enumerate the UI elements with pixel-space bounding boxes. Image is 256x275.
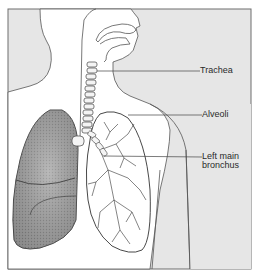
right-bronchus	[72, 136, 84, 146]
respiratory-diagram	[0, 0, 256, 275]
label-alveoli: Alveoli	[202, 110, 229, 119]
arm-region	[190, 104, 251, 269]
label-left-main-bronchus: Left main bronchus	[202, 152, 239, 170]
label-left-main-bronchus-line2: bronchus	[202, 161, 239, 170]
label-trachea: Trachea	[200, 66, 233, 75]
